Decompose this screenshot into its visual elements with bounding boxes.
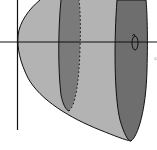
cross-section-disk-end (115, 0, 147, 141)
solid-of-revolution-diagram: x (0, 0, 157, 150)
edge-label: x (154, 55, 157, 61)
